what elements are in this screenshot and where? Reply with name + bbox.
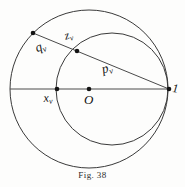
point-origin-marker <box>87 87 92 92</box>
point-x-marker <box>55 87 60 92</box>
point-q-marker <box>31 31 36 36</box>
label-origin: O <box>84 93 93 106</box>
label-unit-point: 1 <box>172 82 179 95</box>
figure-caption: Fig. 38 <box>0 170 185 180</box>
label-x-v: xv <box>43 91 53 106</box>
point-z-marker <box>75 49 80 54</box>
point-one-marker <box>167 87 172 92</box>
label-x-subscript: v <box>49 96 53 105</box>
figure-container: qv zv pv xv O 1 Fig. 38 <box>0 0 185 187</box>
